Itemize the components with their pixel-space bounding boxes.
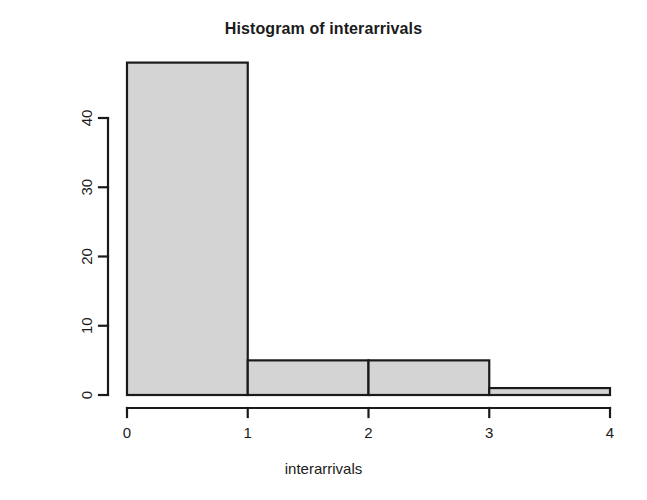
- histogram-plot: Histogram of interarrivals 010203040 012…: [0, 0, 647, 500]
- histogram-bar: [248, 360, 369, 395]
- y-tick-label: 0: [78, 391, 95, 399]
- y-tick-labels: 010203040: [78, 110, 95, 400]
- bars-group: [127, 63, 610, 395]
- histogram-bar: [369, 360, 490, 395]
- x-tick-label: 3: [485, 424, 493, 441]
- x-axis-title: interarrivals: [0, 460, 647, 477]
- y-tick-label: 20: [78, 248, 95, 265]
- x-tick-label: 4: [606, 424, 614, 441]
- y-tick-label: 10: [78, 317, 95, 334]
- x-tick-label: 0: [123, 424, 131, 441]
- histogram-bar: [127, 63, 248, 395]
- x-tick-label: 2: [364, 424, 372, 441]
- histogram-bar: [489, 388, 610, 395]
- plot-canvas: 010203040 01234: [0, 0, 647, 500]
- x-tick-marks: [127, 408, 610, 417]
- y-tick-marks: [99, 118, 108, 395]
- y-tick-label: 40: [78, 110, 95, 127]
- x-tick-labels: 01234: [123, 424, 614, 441]
- y-tick-label: 30: [78, 179, 95, 196]
- x-tick-label: 1: [244, 424, 252, 441]
